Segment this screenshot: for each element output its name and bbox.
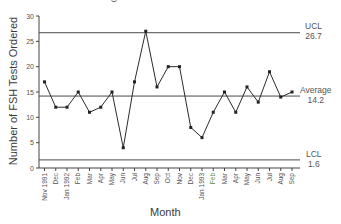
data-point [212,111,215,114]
x-tick-label: Feb [209,173,216,185]
y-tick-label: 5 [30,139,34,146]
x-tick-label: Aug [142,173,150,185]
x-tick-label: Jun [254,173,261,184]
lcl-label: LCL 1.6 [306,149,322,169]
data-point [201,136,204,139]
y-tick-label: 30 [26,13,34,20]
y-axis-label: Number of FSH Tests Ordered [7,16,19,166]
x-tick-label: Apr [97,172,105,183]
data-point [77,91,80,94]
x-tick-label: Dec [52,172,59,184]
data-point [246,85,249,88]
data-point [223,91,226,94]
lcl-text: LCL [306,149,322,159]
control-chart: 051015202530Nov 1991DecJan 1992FebMarApr… [0,0,341,224]
x-tick-label: Jan 1992 [63,173,70,200]
x-tick-label: Apr [232,172,240,183]
data-point [156,85,159,88]
x-tick-label: Mar [86,172,93,184]
y-tick-label: 20 [26,63,34,70]
x-tick-label: Jun [119,173,126,184]
data-point [291,91,294,94]
x-tick-label: Mar [221,172,228,184]
lcl-value: 1.6 [306,159,322,169]
x-axis-label: Month [150,206,181,218]
y-tick-label: 15 [26,89,34,96]
x-tick-label: Feb [74,173,81,185]
average-text: Average [300,85,332,95]
data-point [88,111,91,114]
average-label: Average 14.2 [300,85,332,105]
ucl-value: 26.7 [305,31,322,41]
y-tick-label: 10 [26,114,34,121]
data-point [189,126,192,129]
ucl-label: UCL 26.7 [305,21,322,41]
x-tick-label: Oct [164,173,171,183]
x-tick-label: Jul [131,172,138,181]
x-tick-label: May [243,172,251,185]
data-point [54,106,57,109]
x-tick-label: Nov [176,172,183,184]
ucl-text: UCL [305,21,322,31]
data-point [234,111,237,114]
data-point [167,65,170,68]
x-tick-label: Aug [277,173,285,185]
average-value: 14.2 [300,95,332,105]
x-tick-label: Nov 1991 [41,173,48,201]
data-point [133,80,136,83]
data-line [45,31,293,148]
data-point [178,65,181,68]
data-point [66,106,69,109]
x-tick-label: Sep [288,173,296,185]
data-point [99,106,102,109]
x-tick-label: Sep [153,173,161,185]
data-point [257,101,260,104]
x-tick-label: Jan 1993 [198,173,205,200]
data-point [268,70,271,73]
data-point [111,91,114,94]
x-tick-label: May [108,172,116,185]
data-point [279,96,282,99]
y-tick-label: 0 [30,165,34,172]
x-tick-label: Dec [187,172,194,184]
data-point [144,30,147,33]
x-tick-label: Jul [266,172,273,181]
data-point [43,80,46,83]
data-point [122,146,125,149]
y-tick-label: 25 [26,38,34,45]
